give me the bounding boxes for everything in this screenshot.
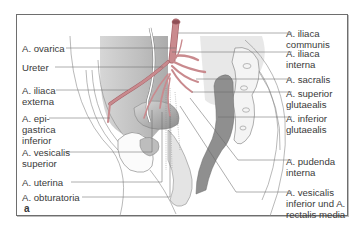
perineum-outline xyxy=(150,170,176,214)
label-a-vesicalis-inferior-line1: A. vesicalis xyxy=(286,187,334,198)
label-a-inferior-glutaealis-line1: A. inferior xyxy=(286,113,327,124)
label-a-iliaca-externa-line2: externa xyxy=(22,96,54,107)
label-a-vesicalis-superior-line2: superior xyxy=(22,158,57,169)
label-a-iliaca-interna-line1: A. iliaca xyxy=(286,48,320,59)
label-a-iliaca-communis-line1: A. iliaca xyxy=(286,28,320,39)
rectum xyxy=(196,75,234,194)
label-a-superior-glutaealis-line2: glutaealis xyxy=(286,99,327,110)
label-a-inferior-glutaealis-line2: glutaealis xyxy=(286,124,327,135)
label-a-sacralis: A. sacralis xyxy=(286,74,330,85)
label-a-uterina: A. uterina xyxy=(22,177,63,188)
label-a-vesicalis-superior-line1: A. vesicalis xyxy=(22,147,70,158)
label-ureter: Ureter xyxy=(22,62,49,73)
label-a-vesicalis-inferior-line2: inferior und A. xyxy=(286,198,345,209)
label-a-ovarica: A. ovarica xyxy=(22,43,65,54)
label-a-pudenda-interna-line1: A. pudenda xyxy=(286,156,335,167)
label-a-iliaca-interna-line2: interna xyxy=(286,59,315,70)
label-a-rectalis-media: rectalis media xyxy=(286,209,345,220)
label-a-iliaca-externa-line1: A. iliaca xyxy=(22,85,56,96)
label-a-epigastrica-line1: A. epi- xyxy=(22,113,50,124)
label-a-superior-glutaealis-line1: A. superior xyxy=(286,88,332,99)
label-a-epigastrica-line3: inferior xyxy=(22,135,51,146)
label-a-pudenda-interna-line2: interna xyxy=(286,167,315,178)
label-a-obturatoria: A. obturatoria xyxy=(22,192,80,203)
vagina xyxy=(168,130,192,206)
panel-letter: a xyxy=(24,203,30,214)
label-a-epigastrica-line2: gastrica xyxy=(22,124,56,135)
